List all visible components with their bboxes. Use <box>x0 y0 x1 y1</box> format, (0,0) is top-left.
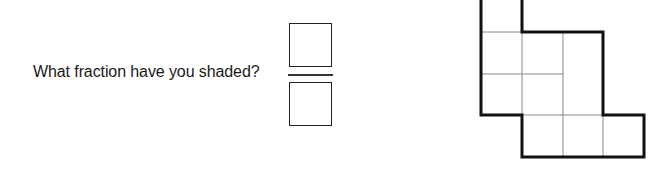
grid-cell[interactable] <box>563 32 603 74</box>
grid-cell[interactable] <box>481 0 522 32</box>
grid-cell[interactable] <box>522 74 563 115</box>
grid-cell[interactable] <box>563 74 603 115</box>
shape-grid <box>0 0 661 172</box>
grid-cell[interactable] <box>522 115 563 157</box>
grid-cell[interactable] <box>603 115 644 157</box>
grid-cell[interactable] <box>563 115 603 157</box>
grid-cell[interactable] <box>481 74 522 115</box>
grid-cell[interactable] <box>481 32 522 74</box>
grid-cell[interactable] <box>522 32 563 74</box>
